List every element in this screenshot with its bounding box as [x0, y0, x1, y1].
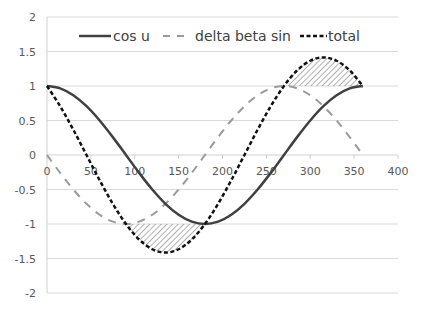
y-tick-label: 0	[29, 149, 36, 162]
y-axis-ticks: 21.510.50-0.5-1-1.5-2	[15, 11, 36, 300]
x-tick-label: 200	[212, 165, 233, 178]
legend: cos u delta beta sin total	[79, 28, 360, 44]
x-tick-label: 350	[344, 165, 365, 178]
y-tick-label: -1.5	[15, 253, 36, 266]
y-tick-label: 1.5	[19, 46, 37, 59]
y-tick-label: -1	[25, 218, 36, 231]
x-tick-label: 400	[388, 165, 409, 178]
y-tick-label: 1	[29, 80, 36, 93]
legend-label-cos-u: cos u	[113, 28, 150, 44]
x-tick-label: 150	[168, 165, 189, 178]
y-tick-label: -2	[25, 287, 36, 300]
chart: 21.510.50-0.5-1-1.5-2 050100150200250300…	[0, 0, 426, 315]
x-tick-label: 300	[300, 165, 321, 178]
x-tick-label: 0	[44, 165, 51, 178]
legend-item-total: total	[300, 28, 360, 44]
legend-label-delta-beta-sin: delta beta sin	[195, 28, 291, 44]
x-axis-ticks: 050100150200250300350400	[44, 155, 409, 178]
y-tick-label: -0.5	[15, 184, 36, 197]
legend-item-cos-u: cos u	[79, 28, 150, 44]
y-tick-label: 2	[29, 11, 36, 24]
legend-label-total: total	[328, 28, 360, 44]
legend-item-delta-beta-sin: delta beta sin	[163, 28, 291, 44]
y-tick-label: 0.5	[19, 115, 37, 128]
